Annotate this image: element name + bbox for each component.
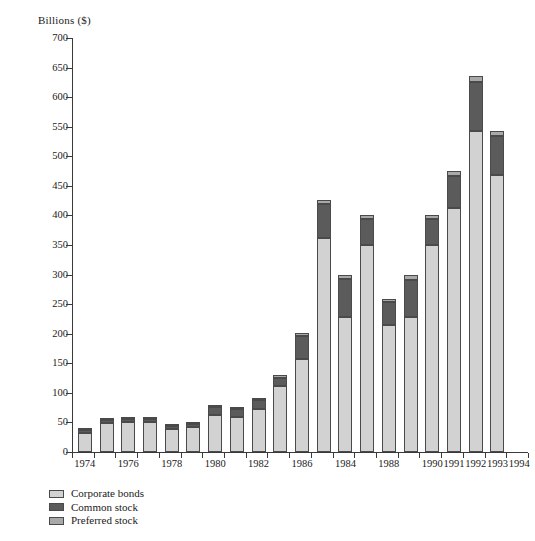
bar[interactable] xyxy=(121,418,135,452)
bar-segment-common-stock xyxy=(490,136,504,175)
bar-segment-corporate-bonds xyxy=(469,131,483,452)
y-axis-tick xyxy=(66,422,72,423)
bar[interactable] xyxy=(360,215,374,452)
bar-segment-common-stock xyxy=(338,279,352,316)
bar-segment-common-stock xyxy=(208,407,222,415)
bar[interactable] xyxy=(273,375,287,452)
bar-segment-common-stock xyxy=(230,409,244,416)
legend-label: Corporate bonds xyxy=(71,488,144,499)
y-axis-tick xyxy=(66,97,72,98)
y-axis-tick xyxy=(66,156,72,157)
x-axis-tick-label: 1991 xyxy=(444,458,465,470)
bar-segment-corporate-bonds xyxy=(100,423,114,452)
bar[interactable] xyxy=(165,425,179,452)
bar-segment-corporate-bonds xyxy=(447,208,461,452)
bar-segment-common-stock xyxy=(78,430,92,433)
bar-segment-common-stock xyxy=(404,280,418,317)
bar-segment-common-stock xyxy=(165,426,179,429)
legend-label: Preferred stock xyxy=(71,515,138,526)
bar[interactable] xyxy=(469,76,483,452)
y-axis-tick xyxy=(66,186,72,187)
legend-item[interactable]: Common stock xyxy=(49,501,144,515)
bar-segment-preferred-stock xyxy=(382,299,396,302)
bar-segment-preferred-stock xyxy=(121,417,135,419)
bar-segment-corporate-bonds xyxy=(360,245,374,452)
bar[interactable] xyxy=(186,423,200,452)
y-axis-labels: 0501001502002503003504004505005506006507… xyxy=(34,38,68,453)
bar[interactable] xyxy=(252,398,266,452)
x-axis-tick-label: 1976 xyxy=(118,458,139,470)
bar[interactable] xyxy=(317,200,331,452)
x-axis-line xyxy=(72,452,528,453)
bar[interactable] xyxy=(78,429,92,452)
x-axis-tick-label: 1990 xyxy=(422,458,443,470)
bar[interactable] xyxy=(208,405,222,452)
bar[interactable] xyxy=(295,333,309,452)
bar-segment-preferred-stock xyxy=(447,171,461,176)
x-axis-tick-label: 1974 xyxy=(74,458,95,470)
bar-segment-corporate-bonds xyxy=(490,175,504,452)
bar[interactable] xyxy=(338,275,352,452)
chart-legend: Corporate bondsCommon stockPreferred sto… xyxy=(49,487,144,528)
bar-segment-common-stock xyxy=(100,420,114,423)
y-axis-tick xyxy=(66,68,72,69)
x-axis-tick-label: 1994 xyxy=(509,458,530,470)
bar[interactable] xyxy=(490,131,504,452)
bar-segment-common-stock xyxy=(360,219,374,245)
y-axis-tick xyxy=(66,245,72,246)
y-axis-tick xyxy=(66,127,72,128)
bar-segment-common-stock xyxy=(295,336,309,358)
bar-segment-preferred-stock xyxy=(100,418,114,420)
chart-container: Billions ($) 050100150200250300350400450… xyxy=(0,0,535,541)
x-axis-tick-label: 1984 xyxy=(335,458,356,470)
bar-segment-common-stock xyxy=(317,204,331,238)
bar-segment-corporate-bonds xyxy=(382,325,396,452)
x-axis-tick-label: 1992 xyxy=(465,458,486,470)
bar[interactable] xyxy=(230,408,244,452)
x-axis-tick-label: 1978 xyxy=(161,458,182,470)
bar-segment-preferred-stock xyxy=(78,428,92,430)
y-axis-title: Billions ($) xyxy=(38,14,91,26)
x-axis-tick-label: 1986 xyxy=(292,458,313,470)
y-axis-tick xyxy=(66,363,72,364)
y-axis-tick xyxy=(66,304,72,305)
bar[interactable] xyxy=(382,299,396,452)
bar[interactable] xyxy=(447,171,461,452)
bar-segment-preferred-stock xyxy=(295,333,309,336)
bar-segment-preferred-stock xyxy=(469,76,483,82)
bar-segment-preferred-stock xyxy=(252,398,266,400)
x-axis-tick-label: 1982 xyxy=(248,458,269,470)
bar[interactable] xyxy=(404,275,418,452)
y-axis-line xyxy=(72,38,73,453)
bar-segment-preferred-stock xyxy=(490,131,504,136)
bar-segment-common-stock xyxy=(273,378,287,386)
bar-segment-corporate-bonds xyxy=(338,317,352,452)
bar-segment-preferred-stock xyxy=(338,275,352,280)
y-axis-tick xyxy=(66,334,72,335)
bar[interactable] xyxy=(425,215,439,452)
bar-segment-preferred-stock xyxy=(143,417,157,419)
x-axis-tick-label: 1993 xyxy=(487,458,508,470)
bar-segment-common-stock xyxy=(382,302,396,326)
y-axis-tick xyxy=(66,393,72,394)
bar[interactable] xyxy=(143,418,157,452)
bar[interactable] xyxy=(100,419,114,452)
x-axis-tick-label: 1988 xyxy=(378,458,399,470)
bar-segment-preferred-stock xyxy=(360,215,374,219)
bar-segment-corporate-bonds xyxy=(143,422,157,452)
legend-item[interactable]: Corporate bonds xyxy=(49,487,144,501)
plot-area xyxy=(72,38,528,453)
bar-segment-corporate-bonds xyxy=(78,433,92,452)
bar-segment-common-stock xyxy=(143,419,157,422)
bar-segment-common-stock xyxy=(186,424,200,427)
y-axis-tick xyxy=(66,215,72,216)
bar-segment-corporate-bonds xyxy=(230,417,244,452)
legend-swatch xyxy=(49,517,64,525)
bar-segment-corporate-bonds xyxy=(295,359,309,452)
bar-segment-preferred-stock xyxy=(230,407,244,409)
legend-item[interactable]: Preferred stock xyxy=(49,514,144,528)
legend-swatch xyxy=(49,503,64,511)
x-axis-tick-label: 1980 xyxy=(205,458,226,470)
bar-segment-corporate-bonds xyxy=(404,317,418,452)
y-axis-tick xyxy=(66,38,72,39)
